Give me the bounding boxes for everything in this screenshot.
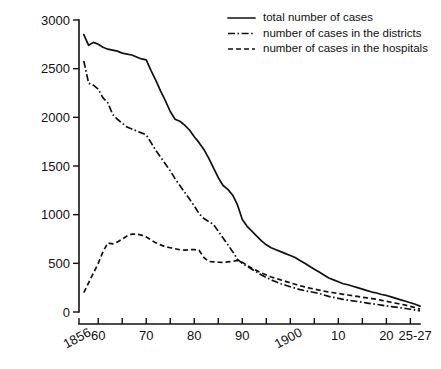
x-axis-tick-label: 25-27 — [399, 328, 432, 343]
x-axis-tick-label: 70 — [139, 328, 153, 343]
chart-container: 050010001500200025003000 185660708090190… — [0, 0, 441, 369]
y-axis-tick-label: 0 — [63, 305, 70, 320]
chart-legend: total number of casesnumber of cases in … — [228, 11, 428, 54]
legend-label: total number of cases — [263, 11, 373, 23]
series-line-hospitals — [84, 234, 420, 309]
x-axis-tick-label: 1900 — [272, 325, 305, 352]
series-line-total — [84, 35, 420, 307]
x-axis-tick-label: 10 — [331, 328, 345, 343]
legend-label: number of cases in the hospitals — [263, 42, 428, 54]
x-axis-tick-label: 80 — [187, 328, 201, 343]
y-axis-tick-label: 1000 — [41, 207, 70, 222]
series-lines — [84, 35, 420, 311]
y-axis-tick-label: 3000 — [41, 13, 70, 28]
x-axis-tick-label: 1856 — [61, 325, 94, 352]
y-axis-tick-label: 2500 — [41, 61, 70, 76]
y-axis-tick-label: 500 — [48, 256, 70, 271]
series-line-districts — [84, 61, 420, 311]
y-axis-tick-label: 2000 — [41, 110, 70, 125]
y-axis: 050010001500200025003000 — [41, 13, 79, 320]
legend-label: number of cases in the districts — [263, 27, 422, 39]
x-axis-tick-label: 20 — [379, 328, 393, 343]
x-axis-tick-label: 90 — [235, 328, 249, 343]
y-axis-tick-label: 1500 — [41, 159, 70, 174]
x-axis: 1856607080901900102025-27 — [61, 318, 432, 351]
line-chart: 050010001500200025003000 185660708090190… — [0, 0, 441, 369]
x-axis-tick-label: 60 — [91, 328, 105, 343]
